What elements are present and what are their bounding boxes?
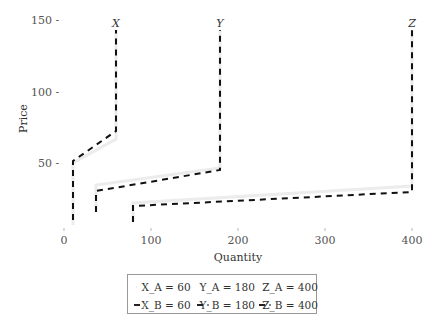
series-a bbox=[73, 30, 412, 225]
y-axis-label: Price bbox=[17, 104, 30, 133]
legend-label: X_B = 60 bbox=[141, 299, 190, 311]
x-tick-400: 400 bbox=[402, 234, 423, 247]
x-tick-0: 0 bbox=[61, 234, 68, 247]
series-b bbox=[73, 30, 412, 222]
legend-item-y-b: Y_B = 180 bbox=[191, 296, 254, 314]
legend-label: Y_A = 180 bbox=[200, 281, 255, 293]
curve-label-z: Z bbox=[407, 17, 416, 30]
legend-label: X_A = 60 bbox=[141, 281, 190, 293]
y-tick-100: 100 - bbox=[31, 86, 59, 99]
y-axis: 150 - 100 - 50 - bbox=[31, 14, 59, 170]
legend-item-x-a: X_A = 60 bbox=[128, 278, 191, 296]
legend-label: Z_A = 400 bbox=[262, 281, 318, 293]
y-tick-150: 150 - bbox=[31, 14, 59, 27]
curve-label-x: X bbox=[111, 17, 121, 30]
x-axis: 0 100 200 300 400 bbox=[61, 228, 423, 247]
curve-label-y: Y bbox=[216, 17, 225, 30]
legend-key-solid-light bbox=[134, 283, 138, 291]
legend-item-x-b: X_B = 60 bbox=[128, 296, 191, 314]
legend-key-dashed-dark bbox=[134, 301, 138, 309]
x-axis-label: Quantity bbox=[214, 251, 263, 264]
legend: X_A = 60 Y_A = 180 Z_A = 400 X_B = 60 Y_… bbox=[127, 274, 317, 314]
x-tick-200: 200 bbox=[228, 234, 249, 247]
legend-item-y-a: Y_A = 180 bbox=[191, 278, 254, 296]
x-tick-100: 100 bbox=[141, 234, 162, 247]
legend-row-a: X_A = 60 Y_A = 180 Z_A = 400 bbox=[128, 278, 316, 296]
legend-item-z-a: Z_A = 400 bbox=[253, 278, 316, 296]
legend-item-z-b: Z_B = 400 bbox=[253, 296, 316, 314]
x-tick-300: 300 bbox=[315, 234, 336, 247]
legend-row-b: X_B = 60 Y_B = 180 Z_B = 400 bbox=[128, 296, 316, 314]
y-tick-50: 50 - bbox=[38, 157, 59, 170]
